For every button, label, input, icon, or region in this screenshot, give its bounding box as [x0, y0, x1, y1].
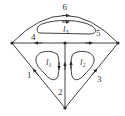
node-right [116, 41, 119, 44]
loop-l1-label: l1 [46, 57, 52, 68]
node-center [63, 41, 66, 44]
branch-2-label: 2 [58, 87, 63, 97]
branch-1-arrow-icon [34, 70, 38, 75]
branch-1 [12, 43, 65, 108]
branch-5-label: 5 [96, 28, 101, 38]
branch-1-label: 1 [27, 70, 32, 80]
branch-6-label: 6 [63, 2, 68, 12]
loop-l3-label: l3 [63, 24, 69, 35]
branch-4-label: 4 [31, 32, 36, 42]
branch-3-arrow-icon [92, 70, 96, 75]
node-left [10, 41, 13, 44]
circuit-graph-diagram: 6 l3 5 4 1 3 2 l1 l2 [0, 0, 125, 116]
loop-l2-label: l2 [80, 57, 86, 68]
branch-3-label: 3 [97, 74, 102, 84]
branch-3 [65, 43, 118, 108]
node-bottom [63, 106, 66, 109]
